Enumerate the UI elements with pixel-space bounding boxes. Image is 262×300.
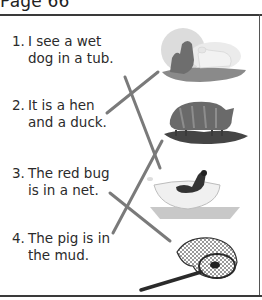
- matching-lines: [0, 0, 262, 300]
- match-line-3: [110, 193, 170, 241]
- match-line-2: [107, 72, 158, 113]
- match-line-4: [113, 141, 162, 233]
